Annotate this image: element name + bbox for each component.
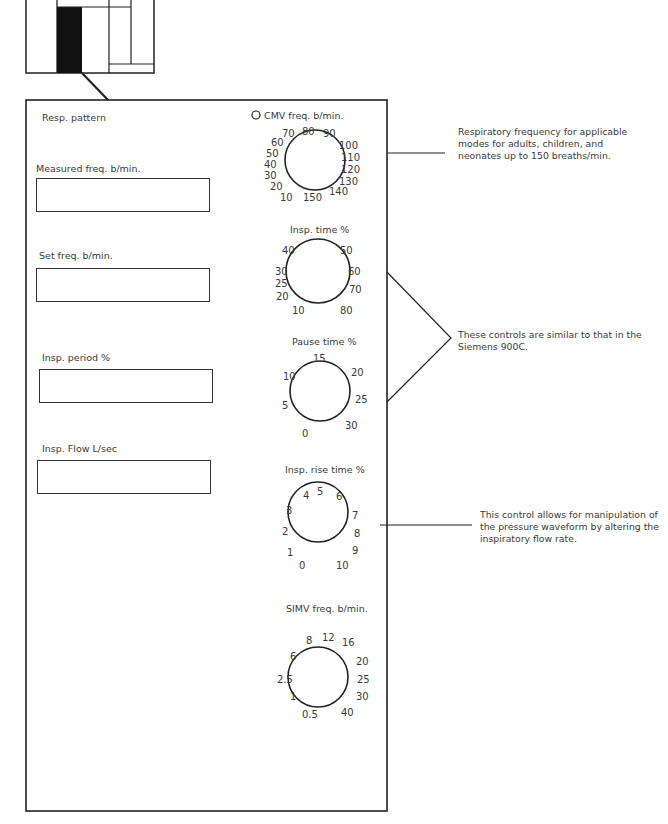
- dial-cmv-freq[interactable]: CMV freq. b/min. 10 20 30 40 50 60 70 80…: [252, 110, 360, 203]
- dial-label: CMV freq. b/min.: [264, 110, 343, 121]
- svg-text:20: 20: [351, 367, 364, 378]
- svg-text:20: 20: [276, 291, 289, 302]
- highlighted-section: [57, 7, 82, 73]
- dial-label: Pause time %: [292, 336, 356, 347]
- svg-text:70: 70: [282, 128, 295, 139]
- dial-label: SIMV freq. b/min.: [286, 603, 368, 614]
- display-insp-period: [39, 369, 213, 403]
- svg-text:120: 120: [341, 164, 360, 175]
- svg-text:1: 1: [290, 691, 296, 702]
- svg-text:30: 30: [264, 170, 277, 181]
- dial-ticks: 10 20 30 40 50 60 70 80 90 100 110 120 1…: [264, 126, 360, 203]
- svg-text:16: 16: [342, 637, 355, 648]
- svg-text:90: 90: [323, 128, 336, 139]
- svg-text:2: 2: [282, 526, 288, 537]
- svg-text:40: 40: [264, 159, 277, 170]
- svg-text:30: 30: [275, 266, 288, 277]
- zoom-connector-line: [82, 73, 108, 100]
- svg-text:10: 10: [292, 305, 305, 316]
- dial-label: Insp. time %: [290, 224, 349, 235]
- svg-text:6: 6: [336, 491, 342, 502]
- annotation-time-controls: These controls are similar to that in th…: [457, 329, 642, 352]
- svg-text:0.5: 0.5: [302, 709, 318, 720]
- svg-text:This control allows for manipu: This control allows for manipulation of: [479, 509, 659, 520]
- indicator-led-icon: [252, 111, 260, 119]
- svg-text:15: 15: [313, 353, 326, 364]
- dial-knob[interactable]: [288, 647, 348, 707]
- dial-insp-rise-time[interactable]: Insp. rise time % 0 1 2 3 4 5 6 7 8 9 10: [282, 464, 365, 571]
- svg-text:25: 25: [355, 394, 368, 405]
- svg-text:30: 30: [345, 420, 358, 431]
- svg-text:40: 40: [341, 707, 354, 718]
- field-label-insp-period: Insp. period %: [42, 352, 110, 363]
- svg-text:2.5: 2.5: [277, 674, 293, 685]
- ventilator-panel-diagram: CMV freq. b/min. 10 20 30 40 50 60 70 80…: [0, 0, 668, 824]
- svg-text:8: 8: [306, 635, 312, 646]
- display-insp-flow: [37, 460, 211, 494]
- svg-text:neonates up to 150 breaths/min: neonates up to 150 breaths/min.: [458, 150, 611, 161]
- svg-text:Respiratory frequency for appl: Respiratory frequency for applicable: [458, 126, 628, 137]
- svg-text:100: 100: [339, 140, 358, 151]
- svg-text:0: 0: [299, 560, 305, 571]
- field-label-insp-flow: Insp. Flow L/sec: [42, 443, 117, 454]
- annotation-cmv: Respiratory frequency for applicable mod…: [458, 126, 628, 161]
- dial-label: Insp. rise time %: [285, 464, 365, 475]
- svg-text:110: 110: [341, 152, 360, 163]
- svg-text:0: 0: [302, 428, 308, 439]
- machine-thumbnail: [26, 0, 154, 100]
- svg-text:9: 9: [352, 545, 358, 556]
- dial-ticks: 0 5 10 15 20 25 30: [282, 353, 368, 439]
- svg-text:the pressure waveform by alter: the pressure waveform by altering the: [480, 521, 659, 532]
- svg-text:40: 40: [282, 245, 295, 256]
- svg-text:These controls are similar to: These controls are similar to that in th…: [457, 329, 642, 340]
- annotation-rise-time: This control allows for manipulation of …: [479, 509, 659, 544]
- svg-text:modes for adults, children, an: modes for adults, children, and: [458, 138, 603, 149]
- dial-insp-time[interactable]: Insp. time % 10 20 25 30 40 50 60 70 80: [275, 224, 362, 316]
- svg-text:10: 10: [336, 560, 349, 571]
- svg-text:50: 50: [340, 245, 353, 256]
- svg-text:60: 60: [348, 266, 361, 277]
- svg-text:1: 1: [287, 547, 293, 558]
- svg-text:70: 70: [349, 284, 362, 295]
- dial-simv-freq[interactable]: SIMV freq. b/min. 0.5 1 2.5 6 8 12 16 20…: [277, 603, 370, 720]
- svg-text:80: 80: [340, 305, 353, 316]
- svg-text:150: 150: [303, 192, 322, 203]
- svg-text:5: 5: [317, 486, 323, 497]
- svg-text:50: 50: [266, 148, 279, 159]
- display-measured-freq: [36, 178, 210, 212]
- svg-text:10: 10: [283, 371, 296, 382]
- dial-knob[interactable]: [285, 130, 345, 190]
- svg-text:25: 25: [275, 278, 288, 289]
- field-label-set-freq: Set freq. b/min.: [39, 250, 113, 261]
- svg-text:3: 3: [286, 505, 292, 516]
- svg-text:12: 12: [322, 632, 335, 643]
- svg-text:Siemens 900C.: Siemens 900C.: [458, 341, 528, 352]
- svg-text:20: 20: [270, 181, 283, 192]
- svg-text:4: 4: [303, 490, 309, 501]
- svg-text:140: 140: [329, 186, 348, 197]
- field-label-measured-freq: Measured freq. b/min.: [36, 163, 141, 174]
- leader-bracket-time-controls: [387, 272, 451, 402]
- svg-text:30: 30: [356, 691, 369, 702]
- svg-text:7: 7: [352, 510, 358, 521]
- svg-text:6: 6: [290, 651, 296, 662]
- dial-pause-time[interactable]: Pause time % 0 5 10 15 20 25 30: [282, 336, 368, 439]
- dial-knob[interactable]: [290, 361, 350, 421]
- svg-text:25: 25: [357, 674, 370, 685]
- panel-title: Resp. pattern: [42, 112, 106, 123]
- svg-text:5: 5: [282, 400, 288, 411]
- svg-text:10: 10: [280, 192, 293, 203]
- svg-text:80: 80: [302, 126, 315, 137]
- svg-text:8: 8: [354, 528, 360, 539]
- svg-text:20: 20: [356, 656, 369, 667]
- display-set-freq: [36, 268, 210, 302]
- svg-text:inspiratory flow rate.: inspiratory flow rate.: [480, 533, 577, 544]
